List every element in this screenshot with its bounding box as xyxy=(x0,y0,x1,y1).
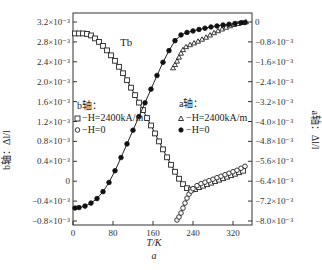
open-triangle-marker-icon xyxy=(179,116,184,121)
right-tick-label: −4.8×10⁻³ xyxy=(255,136,293,146)
left-tick-label: 1.2×10⁻³ xyxy=(37,117,70,127)
filled-circle-marker-icon xyxy=(161,60,166,65)
filled-circle-marker-icon xyxy=(203,26,208,31)
open-square-marker-icon xyxy=(169,162,174,167)
plot-title: Tb xyxy=(120,36,133,48)
filled-circle-marker-icon xyxy=(119,155,124,160)
right-tick-label: −4.0×10⁻³ xyxy=(255,117,293,127)
legend-a-title: a轴： xyxy=(179,97,203,109)
filled-circle-marker-icon xyxy=(131,128,136,133)
filled-circle-marker-icon xyxy=(143,101,148,106)
right-tick-label: −5.6×10⁻³ xyxy=(255,156,293,166)
open-square-marker-icon xyxy=(165,155,170,160)
filled-circle-marker-icon xyxy=(149,87,154,92)
x-axis-title: T/K xyxy=(146,237,162,248)
right-y-axis-title: a轴：Δl/l xyxy=(310,110,322,149)
left-tick-label: −0.8×10⁻³ xyxy=(32,216,70,226)
right-tick-label: −2.4×10⁻³ xyxy=(255,77,293,87)
left-tick-label: −0.4×10⁻³ xyxy=(32,196,70,206)
x-axis: 080160240320 xyxy=(71,221,241,238)
filled-circle-marker-icon xyxy=(243,20,248,25)
right-tick-label: −6.4×10⁻³ xyxy=(255,176,293,186)
right-tick-label: −3.2×10⁻³ xyxy=(255,97,293,107)
right-tick-label: −7.2×10⁻³ xyxy=(255,196,293,206)
legend-b-entry-zero: −H=0 xyxy=(82,124,106,135)
filled-circle-marker-icon xyxy=(191,29,196,34)
filled-circle-marker-icon xyxy=(101,189,106,194)
open-circle-marker-icon xyxy=(181,206,186,211)
legend-a-entry-zero: −H=0 xyxy=(186,124,210,135)
filled-circle-marker-icon xyxy=(215,24,220,29)
left-tick-label: 2.8×10⁻³ xyxy=(37,37,70,47)
left-tick-label: 1.6×10⁻³ xyxy=(37,97,70,107)
open-square-marker-icon xyxy=(153,131,158,136)
filled-circle-marker-icon xyxy=(179,128,183,132)
legend-a-entry-field: −H=2400kA/m xyxy=(186,112,248,123)
series-open-circle xyxy=(175,164,248,222)
open-square-marker-icon xyxy=(137,100,142,105)
x-tick-label: 240 xyxy=(186,228,200,238)
open-square-marker-icon xyxy=(121,71,126,76)
filled-circle-marker-icon xyxy=(155,73,160,78)
filled-circle-marker-icon xyxy=(125,142,130,147)
filled-circle-marker-icon xyxy=(209,25,214,30)
filled-circle-marker-icon xyxy=(77,205,82,210)
filled-circle-marker-icon xyxy=(113,168,118,173)
right-tick-label: 0 xyxy=(255,17,260,27)
filled-circle-marker-icon xyxy=(173,38,178,43)
open-circle-marker-icon xyxy=(179,211,184,216)
open-square-marker-icon xyxy=(109,53,114,58)
open-square-marker-icon xyxy=(161,147,166,152)
open-square-marker-icon xyxy=(113,58,118,63)
legend-b-entry-field: −H=2400kA/m xyxy=(82,112,144,123)
filled-circle-marker-icon xyxy=(221,23,226,28)
left-tick-label: 3.2×10⁻³ xyxy=(37,17,70,27)
open-square-marker-icon xyxy=(129,85,134,90)
left-tick-label: 2.4×10⁻³ xyxy=(37,57,70,67)
filled-circle-marker-icon xyxy=(185,30,190,35)
filled-circle-marker-icon xyxy=(227,22,232,27)
left-tick-label: 0 xyxy=(66,176,71,186)
legend-a-axis: a轴： −H=2400kA/m −H=0 xyxy=(179,97,248,135)
left-tick-label: 0.8×10⁻³ xyxy=(37,136,70,146)
open-circle-marker-icon xyxy=(75,128,80,133)
open-circle-marker-icon xyxy=(183,201,188,206)
right-tick-label: −0.8×10⁻³ xyxy=(255,37,293,47)
filled-circle-marker-icon xyxy=(107,180,112,185)
filled-circle-marker-icon xyxy=(83,204,88,209)
filled-circle-marker-icon xyxy=(95,196,100,201)
open-square-marker-icon xyxy=(133,93,138,98)
x-tick-label: 0 xyxy=(71,228,76,238)
filled-circle-marker-icon xyxy=(167,48,172,53)
filled-circle-marker-icon xyxy=(233,21,238,26)
open-square-marker-icon xyxy=(173,169,178,174)
thermal-expansion-chart: 3.2×10⁻³2.8×10⁻³2.4×10⁻³2.0×10⁻³1.6×10⁻³… xyxy=(0,0,322,270)
left-tick-label: 2.0×10⁻³ xyxy=(37,77,70,87)
open-square-marker-icon xyxy=(117,64,122,69)
filled-circle-marker-icon xyxy=(89,201,94,206)
x-tick-label: 320 xyxy=(226,228,240,238)
legend-b-title: b轴： xyxy=(77,99,102,111)
open-circle-marker-icon xyxy=(243,164,248,169)
right-y-axis: 0−0.8×10⁻³−1.6×10⁻³−2.4×10⁻³−3.2×10⁻³−4.… xyxy=(248,17,293,226)
filled-circle-marker-icon xyxy=(197,27,202,32)
open-square-marker-icon xyxy=(125,78,130,83)
x-tick-label: 80 xyxy=(109,228,119,238)
right-tick-label: −1.6×10⁻³ xyxy=(255,57,293,67)
filled-circle-marker-icon xyxy=(179,33,184,38)
open-square-marker-icon xyxy=(75,116,80,121)
open-circle-marker-icon xyxy=(191,186,196,191)
right-tick-label: −8.0×10⁻³ xyxy=(255,216,293,226)
figure-caption: a xyxy=(152,250,157,261)
left-y-axis-title: b轴：Δl/l xyxy=(0,130,12,170)
left-y-axis: 3.2×10⁻³2.8×10⁻³2.4×10⁻³2.0×10⁻³1.6×10⁻³… xyxy=(32,17,77,226)
open-square-marker-icon xyxy=(157,139,162,144)
left-tick-label: 0.4×10⁻³ xyxy=(37,156,70,166)
open-square-marker-icon xyxy=(105,48,110,53)
open-square-marker-icon xyxy=(177,176,182,181)
open-square-marker-icon xyxy=(145,116,150,121)
open-square-marker-icon xyxy=(149,123,154,128)
